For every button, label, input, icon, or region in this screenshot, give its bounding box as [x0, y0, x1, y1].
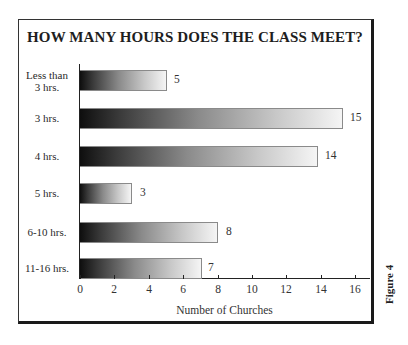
value-label: 3: [140, 186, 146, 198]
x-tick: [114, 275, 115, 279]
bar: [80, 108, 343, 129]
category-label: 5 hrs.: [19, 187, 75, 199]
category-label-line1: Less than: [19, 69, 75, 81]
bar-row-6-10-hrs: 6-10 hrs. 8: [19, 222, 371, 243]
bar: [80, 146, 318, 167]
x-tick-label: 2: [104, 283, 124, 295]
category-label-line2: 3 hrs.: [19, 81, 75, 93]
x-tick-label: 8: [208, 283, 228, 295]
x-tick: [252, 275, 253, 279]
value-label: 5: [174, 73, 180, 85]
x-tick-label: 4: [139, 283, 159, 295]
bar-row-3-hrs: 3 hrs. 15: [19, 108, 371, 129]
value-label: 7: [208, 261, 214, 273]
x-tick: [218, 275, 219, 279]
x-tick: [149, 275, 150, 279]
x-tick-label: 0: [70, 283, 90, 295]
x-tick-label: 14: [311, 283, 331, 295]
bar: [80, 70, 167, 91]
category-label: Less than 3 hrs.: [19, 69, 75, 93]
x-tick: [286, 275, 287, 279]
x-axis-title: Number of Churches: [79, 304, 370, 316]
figure-label: Figure 4: [383, 265, 395, 304]
bar-row-11-16-hrs: 11-16 hrs. 7: [19, 258, 371, 279]
category-label: 4 hrs.: [19, 150, 75, 162]
value-label: 15: [350, 111, 362, 123]
x-tick-label: 16: [345, 283, 365, 295]
bar-row-5-hrs: 5 hrs. 3: [19, 183, 371, 204]
x-tick-label: 10: [242, 283, 262, 295]
y-axis-line: [79, 64, 80, 279]
x-tick-label: 6: [173, 283, 193, 295]
bar-row-less-than-3: Less than 3 hrs. 5: [19, 70, 371, 91]
category-label: 3 hrs.: [19, 112, 75, 124]
bar: [80, 222, 218, 243]
bar: [80, 183, 132, 204]
value-label: 8: [226, 225, 232, 237]
x-tick: [183, 275, 184, 279]
chart-frame: HOW MANY HOURS DOES THE CLASS MEET? Less…: [18, 19, 374, 324]
bar-row-4-hrs: 4 hrs. 14: [19, 146, 371, 167]
x-tick: [355, 275, 356, 279]
x-tick: [80, 275, 81, 279]
x-tick: [321, 275, 322, 279]
value-label: 14: [325, 149, 337, 161]
category-label: 6-10 hrs.: [19, 226, 75, 238]
plot-area: Less than 3 hrs. 5 3 hrs. 15 4 hrs. 14 5…: [19, 20, 371, 321]
category-label: 11-16 hrs.: [19, 262, 75, 274]
x-tick-label: 12: [276, 283, 296, 295]
